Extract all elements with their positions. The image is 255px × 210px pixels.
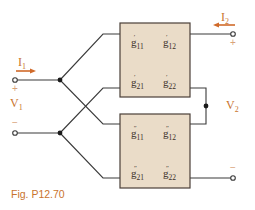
label-port2-minus: − xyxy=(230,162,236,173)
terminal-port1-minus xyxy=(13,131,18,136)
figure-caption: Fig. P12.70 xyxy=(11,188,65,200)
wire-j2-bottom-box-in2 xyxy=(60,133,120,178)
label-port1-minus: − xyxy=(12,117,18,128)
network-top-box: g11′ g12′ g21′ g22′ xyxy=(120,23,190,97)
arrow-i1-icon xyxy=(16,69,36,74)
network-bottom-box: g11″ g12″ g21″ g22″ xyxy=(120,114,190,188)
label-port1-plus: + xyxy=(12,83,18,94)
wire-j1-top-box-in1 xyxy=(60,34,120,80)
junction-dot xyxy=(204,104,209,109)
terminal-port2-minus xyxy=(231,176,236,181)
junction-dot xyxy=(58,78,63,83)
terminal-port1-plus xyxy=(13,78,18,83)
circuit-diagram: g11′ g12′ g21′ g22′ g11″ g12″ g21″ g22″ … xyxy=(0,0,255,210)
label-i1: I1 xyxy=(18,55,26,71)
label-port2-plus: + xyxy=(230,37,236,48)
terminal-port2-plus xyxy=(231,32,236,37)
label-i2: I2 xyxy=(221,10,229,26)
label-v2: V2 xyxy=(226,98,239,114)
label-v1: V1 xyxy=(10,96,23,112)
junction-dot xyxy=(58,131,63,136)
